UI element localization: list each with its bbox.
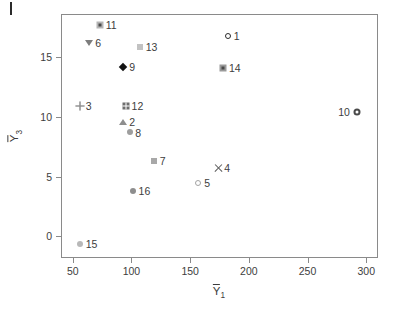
data-point-label: 7: [160, 155, 166, 167]
data-point-label: 11: [106, 19, 117, 31]
plot-data-area: [61, 14, 378, 258]
x-tick-label: 150: [181, 265, 199, 277]
data-point-label: 16: [139, 185, 151, 197]
y-tick-label: 0: [46, 230, 52, 242]
x-tick-mark: [366, 258, 367, 263]
x-tick-label: 100: [123, 265, 141, 277]
y-tick-label: 10: [40, 111, 52, 123]
x-axis-title: Y1: [213, 285, 225, 300]
x-tick-mark: [308, 258, 309, 263]
x-tick-mark: [249, 258, 250, 263]
data-point-label: 12: [132, 100, 144, 112]
x-tick-mark: [73, 258, 74, 263]
data-point-label: 13: [146, 41, 158, 53]
data-point-label: 15: [86, 238, 98, 250]
data-point-label: 1: [234, 30, 240, 42]
data-point-label: 3: [86, 100, 92, 112]
data-point-label: 8: [135, 127, 141, 139]
data-point-label: 4: [224, 162, 230, 174]
data-point-label: 6: [95, 37, 101, 49]
scatter-plot-figure: 50100150200250300 051015 Y1 Y3 123456789…: [0, 0, 396, 314]
x-tick-mark: [190, 258, 191, 263]
x-tick-label: 50: [67, 265, 79, 277]
x-tick-label: 300: [357, 265, 375, 277]
y-tick-label: 5: [46, 171, 52, 183]
data-point-label: 10: [338, 106, 350, 118]
x-tick-label: 200: [240, 265, 258, 277]
data-point-label: 5: [204, 177, 210, 189]
data-point-label: 2: [129, 116, 135, 128]
data-point-label: 9: [129, 61, 135, 73]
data-point-label: 14: [229, 62, 241, 74]
y-tick-label: 15: [40, 51, 52, 63]
page-edge-mark: [10, 2, 12, 15]
x-tick-label: 250: [299, 265, 317, 277]
x-tick-mark: [131, 258, 132, 263]
y-axis-title: Y3: [8, 130, 23, 142]
